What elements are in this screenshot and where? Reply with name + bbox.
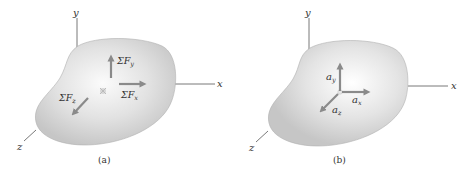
panel-a: y x z ΣFy ΣFx ΣFz (a) [16,7,223,165]
x-axis-label: x [451,80,457,91]
x-axis-label: x [217,78,223,89]
y-axis-label: y [72,7,79,18]
free-body-diagrams: y x z ΣFy ΣFx ΣFz (a) y x z ay ax az (b) [0,0,471,172]
caption-b: (b) [333,155,346,165]
z-axis-label: z [16,141,23,152]
z-axis [256,131,268,142]
z-axis-label: z [248,142,255,153]
panel-b: y x z ay ax az (b) [248,7,457,165]
mass-center-icon [100,88,106,94]
caption-a: (a) [98,155,110,165]
y-axis-label: y [304,7,311,18]
z-axis [24,130,36,141]
